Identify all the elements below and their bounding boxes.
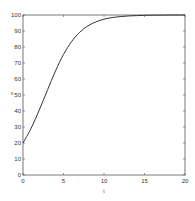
y-tick-label: 40 [14,108,21,114]
x-tick-label: 0 [21,178,25,184]
plot-frame [23,15,185,175]
y-tick-label: 70 [14,60,21,66]
y-axis-label: x [11,90,14,96]
line-chart: 051015200102030405060708090100tx [0,0,195,201]
x-tick-label: 5 [62,178,66,184]
y-tick-label: 30 [14,124,21,130]
y-tick-label: 90 [14,28,21,34]
y-tick-label: 50 [14,92,21,98]
x-tick-label: 20 [182,178,189,184]
x-axis-label: t [103,188,105,194]
y-tick-label: 60 [14,76,21,82]
y-tick-label: 80 [14,44,21,50]
x-tick-label: 15 [141,178,148,184]
x-tick-label: 10 [101,178,108,184]
y-tick-label: 10 [14,156,21,162]
y-tick-label: 100 [11,12,22,18]
y-tick-label: 20 [14,140,21,146]
series-line [23,15,185,143]
